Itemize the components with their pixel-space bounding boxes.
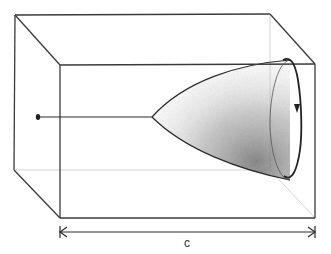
dimension-label: c bbox=[184, 236, 190, 250]
dimension-c: c bbox=[60, 226, 315, 250]
paraboloid-box-diagram: c bbox=[0, 0, 331, 254]
point-dot-icon bbox=[36, 114, 40, 120]
rotation-arrowhead-icon bbox=[294, 104, 300, 113]
focal-line bbox=[36, 114, 152, 120]
back-left-edge bbox=[14, 15, 15, 170]
depth-edge-top-right bbox=[270, 14, 315, 64]
depth-edge-bottom-left bbox=[14, 170, 60, 218]
depth-edge-top-left bbox=[15, 15, 60, 65]
back-top-edge bbox=[15, 14, 270, 15]
